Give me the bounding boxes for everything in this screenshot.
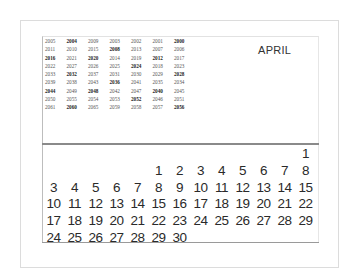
empty-day-cell [169,146,190,163]
year-cell: 2061 [45,103,67,111]
day-number: 14 [127,196,148,213]
year-cell: 2025 [110,62,132,70]
day-number: 6 [106,180,127,197]
day-number: 15 [148,196,169,213]
day-number: 7 [274,163,295,180]
leap-year-cell: 2032 [67,70,89,78]
month-title: APRIL [258,44,291,56]
empty-day-cell [232,146,253,163]
year-cell: 2038 [67,78,89,86]
leap-year-cell: 2040 [153,87,175,95]
year-cell: 2017 [174,54,196,62]
day-number: 13 [253,180,274,197]
leap-year-cell: 2008 [110,45,132,53]
day-row: 17181920212223242526272829 [43,213,316,230]
day-row: 1 [43,146,316,163]
year-cell: 2034 [174,78,196,86]
year-cell: 2026 [88,62,110,70]
year-cell: 2059 [110,103,132,111]
day-number: 15 [295,180,316,197]
day-number: 29 [148,230,169,247]
year-cell: 2015 [88,45,110,53]
year-row: 2044204920482042204720402045 [45,87,196,95]
year-cell: 2041 [131,78,153,86]
year-row: 2016202120202014201920122017 [45,54,196,62]
empty-day-cell [232,230,253,247]
year-row: 2022202720262025202420182023 [45,62,196,70]
leap-year-cell: 2052 [131,95,153,103]
panel-divider [42,143,319,145]
day-number: 20 [253,196,274,213]
year-cell: 2029 [153,70,175,78]
leap-year-cell: 2024 [131,62,153,70]
year-row: 2039203820432036204120352034 [45,78,196,86]
leap-year-cell: 2060 [67,103,89,111]
day-number: 4 [64,180,85,197]
day-number: 17 [43,213,64,230]
year-cell: 2033 [45,70,67,78]
day-number: 1 [148,163,169,180]
day-number: 20 [106,213,127,230]
year-cell: 2027 [67,62,89,70]
year-cell: 2065 [88,103,110,111]
day-row: 3456789101112131415 [43,180,316,197]
year-cell: 2054 [88,95,110,103]
empty-day-cell [190,230,211,247]
day-number: 5 [85,180,106,197]
day-number: 25 [211,213,232,230]
leap-year-cell: 2012 [153,54,175,62]
day-number: 30 [169,230,190,247]
day-row: 12345678 [43,163,316,180]
day-number: 16 [169,196,190,213]
empty-day-cell [127,146,148,163]
year-row: 2011201020152008201320072006 [45,45,196,53]
day-number: 10 [43,196,64,213]
day-number: 26 [232,213,253,230]
day-number: 23 [169,213,190,230]
day-number: 17 [190,196,211,213]
year-cell: 2031 [110,70,132,78]
year-cell: 2011 [45,45,67,53]
year-cell: 2037 [88,70,110,78]
empty-day-cell [85,163,106,180]
day-number: 22 [148,213,169,230]
day-number: 11 [211,180,232,197]
leap-year-cell: 2048 [88,87,110,95]
empty-day-cell [106,146,127,163]
day-number: 28 [274,213,295,230]
year-row: 2005200420092003200220012000 [45,37,196,45]
year-cell: 2043 [88,78,110,86]
year-cell: 2030 [131,70,153,78]
leap-year-cell: 2020 [88,54,110,62]
day-number: 3 [190,163,211,180]
empty-day-cell [253,230,274,247]
empty-day-cell [43,163,64,180]
day-number: 11 [64,196,85,213]
empty-day-cell [85,146,106,163]
leap-year-cell: 2036 [110,78,132,86]
empty-day-cell [274,230,295,247]
day-number: 18 [211,196,232,213]
year-cell: 2001 [153,37,175,45]
year-cell: 2047 [131,87,153,95]
empty-day-cell [106,163,127,180]
day-number: 3 [43,180,64,197]
year-cell: 2021 [67,54,89,62]
leap-year-cell: 2056 [174,103,196,111]
year-cell: 2013 [131,45,153,53]
year-cell: 2005 [45,37,67,45]
day-number: 2 [169,163,190,180]
leap-year-cell: 2044 [45,87,67,95]
leap-year-cell: 2000 [174,37,196,45]
day-number: 25 [64,230,85,247]
day-number: 22 [295,196,316,213]
year-cell: 2053 [110,95,132,103]
year-cell: 2006 [174,45,196,53]
empty-day-cell [64,146,85,163]
year-row: 2033203220372031203020292028 [45,70,196,78]
day-number: 14 [274,180,295,197]
day-number: 13 [106,196,127,213]
year-cell: 2002 [131,37,153,45]
year-cell: 2010 [67,45,89,53]
day-number: 9 [169,180,190,197]
